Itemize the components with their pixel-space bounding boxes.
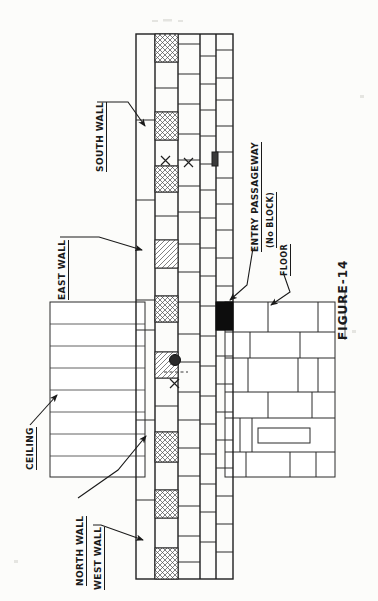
column-b-courses <box>155 34 178 579</box>
floor-masonry <box>225 302 335 477</box>
ceiling-slab <box>50 302 145 477</box>
label-north-wall: NORTH WALL <box>76 516 87 586</box>
block-crosshatch <box>155 432 178 462</box>
leader-east-wall <box>60 237 142 250</box>
label-floor: FLOOR <box>281 244 291 276</box>
wall-column-assembly <box>136 34 233 579</box>
x-mark <box>184 158 193 167</box>
drawing-sheet: SOUTH WALL EAST WALL CEILING NORTH WALL … <box>0 0 378 601</box>
label-east-wall: EAST WALL <box>58 240 69 300</box>
block-crosshatch <box>155 112 178 140</box>
label-ceiling: CEILING <box>26 427 37 470</box>
column-c-courses <box>178 44 200 562</box>
block-crosshatch <box>155 490 178 518</box>
label-entry-passageway-note: (No BLOCK) <box>267 192 277 248</box>
label-entry-passageway: ENTRY PASSAGEWAY <box>251 142 262 252</box>
block-crosshatch <box>155 296 178 322</box>
column-d-courses <box>200 56 216 542</box>
dark-circle-marker <box>170 355 181 366</box>
leader-floor <box>271 272 290 305</box>
floor-inset-rectangle <box>258 428 310 443</box>
block-diaghatch <box>155 240 178 268</box>
solid-black-block <box>216 302 233 330</box>
label-south-wall: SOUTH WALL <box>96 102 107 172</box>
block-crosshatch <box>155 548 178 579</box>
small-dark-detail <box>212 152 218 166</box>
block-crosshatch <box>155 166 178 192</box>
block-crosshatch <box>155 34 178 62</box>
figure-caption: FIGURE-14 <box>337 260 349 340</box>
label-west-wall: WEST WALL <box>94 527 105 590</box>
x-mark <box>161 156 170 165</box>
figure-drawing <box>0 0 378 601</box>
